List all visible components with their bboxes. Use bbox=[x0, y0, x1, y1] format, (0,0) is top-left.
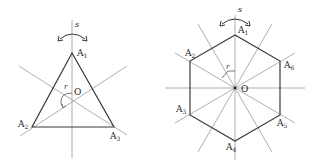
hexagon-figure: s r O A1 A2 A3 A4 A5 A6 bbox=[165, 5, 305, 160]
svg-text:A2: A2 bbox=[184, 48, 196, 59]
triangle-center-label: O bbox=[74, 87, 81, 97]
svg-text:A6: A6 bbox=[283, 60, 295, 71]
symmetry-diagram: s r O A1 A2 A3 s r O bbox=[0, 0, 320, 166]
svg-text:A3: A3 bbox=[175, 104, 187, 115]
triangle-vertex-label-3: A3 bbox=[109, 131, 121, 142]
reflection-arrow-icon bbox=[60, 34, 85, 39]
svg-text:A3: A3 bbox=[109, 131, 121, 142]
triangle-vertex-label-2: A2 bbox=[17, 119, 29, 130]
triangle-vertex-label-1: A1 bbox=[76, 48, 87, 59]
rotation-arrowhead-icon bbox=[62, 104, 66, 108]
hexagon-vertex-label-2: A2 bbox=[184, 48, 196, 59]
svg-text:A5: A5 bbox=[276, 118, 288, 129]
hexagon-vertex-label-5: A5 bbox=[276, 118, 288, 129]
hexagon-vertex-label-6: A6 bbox=[283, 60, 295, 71]
hexagon-center-label: O bbox=[241, 84, 248, 94]
triangle-rotation-label: r bbox=[64, 83, 68, 91]
hexagon-vertex-label-1: A1 bbox=[237, 25, 248, 36]
hexagon-vertex-label-3: A3 bbox=[175, 104, 187, 115]
svg-text:A1: A1 bbox=[237, 25, 248, 36]
hexagon-rotation-label: r bbox=[226, 63, 230, 71]
triangle-shape bbox=[32, 53, 114, 127]
triangle-reflection-label: s bbox=[75, 20, 79, 29]
svg-text:A1: A1 bbox=[76, 48, 87, 59]
hexagon-reflection-label: s bbox=[238, 5, 242, 14]
triangle-figure: s r O A1 A2 A3 bbox=[17, 20, 127, 158]
svg-text:A2: A2 bbox=[17, 119, 29, 130]
hexagon-center-dot bbox=[234, 87, 237, 90]
